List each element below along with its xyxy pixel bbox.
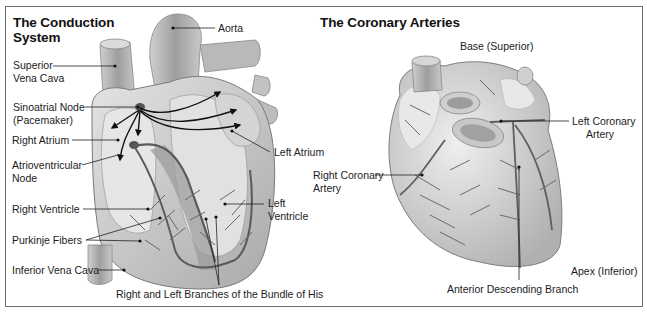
label-left-ventricle-line1: Left: [268, 197, 308, 210]
coronary-title: The Coronary Arteries: [320, 15, 460, 30]
label-superior-vena-cava-line1: Superior: [13, 59, 64, 72]
label-sinoatrial-node: Sinoatrial Node (Pacemaker): [13, 101, 85, 126]
conduction-title-line1: The Conduction: [13, 15, 114, 30]
label-sinoatrial-node-line1: Sinoatrial Node: [13, 101, 85, 114]
label-atrioventricular-node-line2: Node: [12, 172, 82, 185]
conduction-title: The Conduction System: [13, 15, 114, 45]
label-left-ventricle: Left Ventricle: [268, 197, 308, 222]
label-superior-vena-cava-line2: Vena Cava: [13, 72, 64, 85]
label-right-atrium: Right Atrium: [12, 134, 69, 147]
label-left-coronary-line2: Artery: [572, 128, 636, 141]
label-right-ventricle: Right Ventricle: [12, 203, 80, 216]
label-superior-vena-cava: Superior Vena Cava: [13, 59, 64, 84]
label-anterior-descending-branch: Anterior Descending Branch: [447, 283, 578, 296]
label-aorta: Aorta: [218, 22, 243, 35]
conduction-heart-drawing: [88, 14, 278, 289]
label-bundle-of-his: Right and Left Branches of the Bundle of…: [116, 288, 323, 301]
label-apex-inferior: Apex (Inferior): [571, 265, 638, 278]
label-inferior-vena-cava: Inferior Vena Cava: [12, 264, 99, 277]
label-right-coronary-artery: Right Coronary Artery: [313, 169, 384, 194]
label-left-coronary-artery: Left Coronary Artery: [572, 115, 636, 140]
conduction-title-line2: System: [13, 30, 114, 45]
label-purkinje-fibers: Purkinje Fibers: [12, 234, 82, 247]
label-atrioventricular-node-line1: Atrioventricular: [12, 159, 82, 172]
label-sinoatrial-node-line2: (Pacemaker): [13, 114, 85, 127]
label-left-atrium: Left Atrium: [274, 146, 324, 159]
coronary-heart-drawing: [389, 56, 562, 268]
label-left-coronary-line1: Left Coronary: [572, 115, 636, 128]
label-atrioventricular-node: Atrioventricular Node: [12, 159, 82, 184]
label-right-coronary-line2: Artery: [313, 182, 384, 195]
label-right-coronary-line1: Right Coronary: [313, 169, 384, 182]
label-left-ventricle-line2: Ventricle: [268, 210, 308, 223]
label-base-superior: Base (Superior): [460, 40, 534, 53]
